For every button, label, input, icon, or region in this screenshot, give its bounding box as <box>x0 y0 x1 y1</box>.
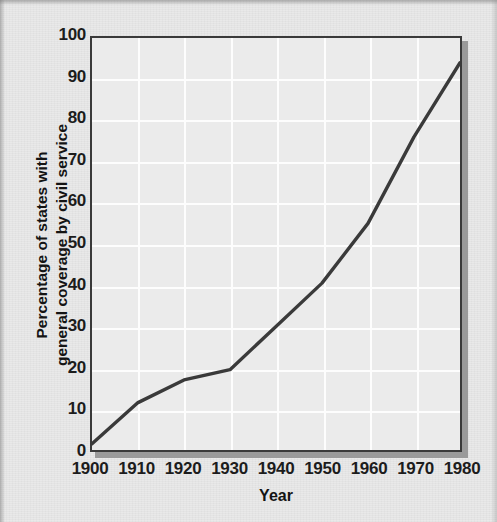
figure-canvas: 0102030405060708090100 Percentage of sta… <box>0 0 497 522</box>
data-series-layer <box>92 38 460 450</box>
line-series-civil-service-coverage <box>92 63 460 444</box>
x-axis-tick-labels: 190019101920193019401950196019701980 <box>90 459 462 489</box>
plot-area <box>90 36 462 452</box>
scan-edge-left <box>0 0 5 522</box>
x-axis-title: Year <box>90 487 462 505</box>
scan-edge-right <box>491 0 497 522</box>
y-axis-tick-label-90: 90 <box>42 67 86 87</box>
y-axis-title-line-2: general coverage by civil service <box>52 95 72 395</box>
y-axis-tick-label-10: 10 <box>42 399 86 419</box>
y-axis-tick-label-100: 100 <box>42 25 86 45</box>
x-axis-tick-label-1980: 1980 <box>432 459 492 479</box>
y-axis-title-line-1: Percentage of states with <box>32 95 52 395</box>
y-axis-tick-label-0: 0 <box>42 441 86 461</box>
y-axis-title: Percentage of states with general covera… <box>32 95 72 395</box>
